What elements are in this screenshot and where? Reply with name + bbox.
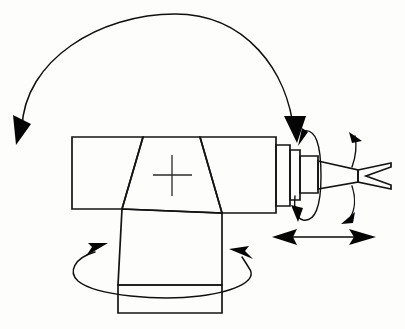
overhead-swing-arc xyxy=(22,14,294,133)
tool-pitch-arrowhead-down xyxy=(341,212,355,224)
support-column xyxy=(118,209,222,285)
motion-linear-travel xyxy=(272,229,376,245)
machine-body xyxy=(72,137,391,313)
tool-pitch-arrowhead-up xyxy=(349,132,362,143)
overhead-swing-arrowhead-left xyxy=(13,115,31,145)
base-rotation-arrowhead-right xyxy=(229,246,253,259)
motion-overhead-swing xyxy=(13,14,306,145)
wrist-flange-2 xyxy=(290,150,300,200)
base-plate xyxy=(118,285,222,313)
base-rotation-loop xyxy=(73,252,251,298)
motion-wrist-roll xyxy=(291,128,321,222)
wrist-flange-1 xyxy=(276,145,290,206)
wrist-flange-3 xyxy=(300,156,318,193)
front-arm-block xyxy=(200,137,276,213)
robot-end-effector-diagram xyxy=(0,0,405,329)
diagram-canvas xyxy=(0,0,405,329)
center-mark-crosshair-icon xyxy=(153,155,192,196)
motion-base-rotation xyxy=(73,243,253,298)
forked-tip xyxy=(358,163,391,189)
